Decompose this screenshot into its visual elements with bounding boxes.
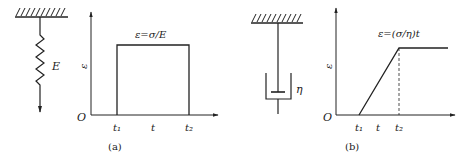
tick-t1-b: t₁ [355, 122, 363, 133]
caption-b: (b) [345, 141, 359, 152]
y-label-b: ε [323, 64, 334, 69]
tick-t2-b: t₂ [395, 122, 403, 133]
diagram-canvas: E ε=σ/E ε O t₁ t t₂ (a) η ε=( [0, 0, 463, 159]
origin-a: O [77, 111, 86, 124]
spring-label: E [51, 60, 60, 73]
dashpot-element: η [251, 14, 303, 114]
ground-hatch-a [16, 8, 65, 16]
dashpot-label: η [296, 83, 303, 96]
curve-label-a: ε=σ/E [135, 29, 167, 40]
origin-b: O [323, 111, 332, 124]
plot-b: ε=(σ/η)t ε O t₁ t t₂ (b) [323, 8, 455, 152]
strain-curve-a [117, 45, 189, 115]
caption-a: (a) [108, 141, 122, 152]
plot-a: ε=σ/E ε O t₁ t t₂ (a) [77, 12, 218, 152]
spring-coil [36, 17, 44, 112]
y-label-a: ε [78, 64, 89, 69]
tick-t-b: t [376, 122, 381, 133]
tick-t-a: t [151, 122, 156, 133]
tick-t2-a: t₂ [185, 122, 193, 133]
ground-hatch-b [252, 14, 301, 22]
spring-element: E [15, 8, 68, 112]
curve-label-b: ε=(σ/η)t [378, 28, 421, 39]
strain-curve-b [359, 48, 448, 115]
tick-t1-a: t₁ [113, 122, 121, 133]
